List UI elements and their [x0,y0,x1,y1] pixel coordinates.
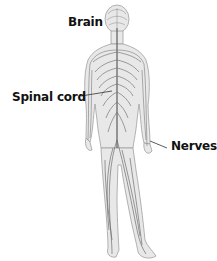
human-body-figure [0,0,217,261]
nerves-label: Nerves [171,140,217,152]
brain-label: Brain [68,16,103,28]
nerves-leader-line [150,141,167,148]
right-hand [144,143,152,153]
nervous-system-diagram: Brain Spinal cord Nerves [0,0,217,261]
spinal-cord-label: Spinal cord [12,91,86,103]
